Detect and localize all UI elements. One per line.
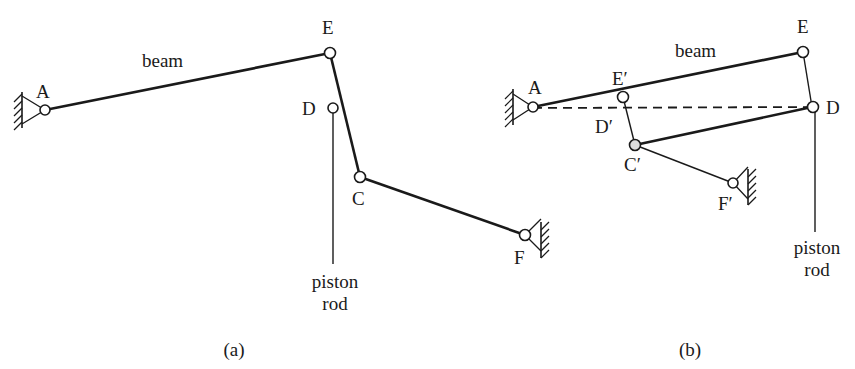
label-a: A (36, 82, 50, 101)
label-d-prime: D′ (595, 117, 613, 136)
label-c: C (352, 189, 365, 208)
label-d: D (302, 99, 316, 118)
joint-e-icon (325, 48, 336, 59)
label-e: E (322, 18, 334, 37)
linkage-drawing (0, 0, 855, 369)
joint-e-b-icon (798, 47, 809, 58)
label-piston-rod-a: piston rod (312, 271, 358, 315)
link-ec-a (330, 53, 360, 177)
label-e-b: E (797, 17, 809, 36)
joint-a-b-icon (528, 102, 538, 112)
piston-label-line1: piston (312, 271, 358, 293)
link-cf-a (360, 177, 525, 235)
joint-d-b-icon (808, 102, 819, 113)
joint-e-prime-icon (618, 92, 629, 103)
piston-label-line2-b: rod (794, 259, 840, 281)
label-c-prime: C′ (624, 155, 641, 174)
label-e-prime: E′ (612, 69, 628, 88)
label-a-b: A (528, 78, 542, 97)
joint-f-icon (520, 230, 531, 241)
diagram-canvas: A beam E D C F piston rod (a) A E′ beam … (0, 0, 855, 369)
joint-c-icon (355, 172, 366, 183)
figure-b (505, 47, 819, 233)
piston-label-line2: rod (312, 293, 358, 315)
dashed-reference-line (533, 107, 812, 108)
label-beam-a: beam (142, 51, 183, 70)
link-cd-b (635, 107, 812, 145)
label-beam-b: beam (675, 41, 716, 60)
joint-f-prime-icon (728, 178, 738, 188)
beam-link-b (533, 52, 803, 107)
piston-label-line1-b: piston (794, 237, 840, 259)
joint-c-prime-icon (630, 140, 641, 151)
label-d-b: D (826, 98, 840, 117)
caption-a: (a) (223, 340, 244, 359)
figure-a (14, 48, 549, 265)
joint-a-icon (40, 105, 50, 115)
label-f: F (514, 248, 525, 267)
label-f-prime: F′ (718, 194, 733, 213)
label-piston-rod-b: piston rod (794, 237, 840, 281)
link-ec-prime-b (623, 97, 635, 145)
link-cf-prime-b (635, 145, 733, 183)
beam-link-a (45, 53, 330, 110)
link-ed-b (803, 52, 812, 107)
joint-d-icon (328, 103, 338, 113)
caption-b: (b) (679, 340, 701, 359)
